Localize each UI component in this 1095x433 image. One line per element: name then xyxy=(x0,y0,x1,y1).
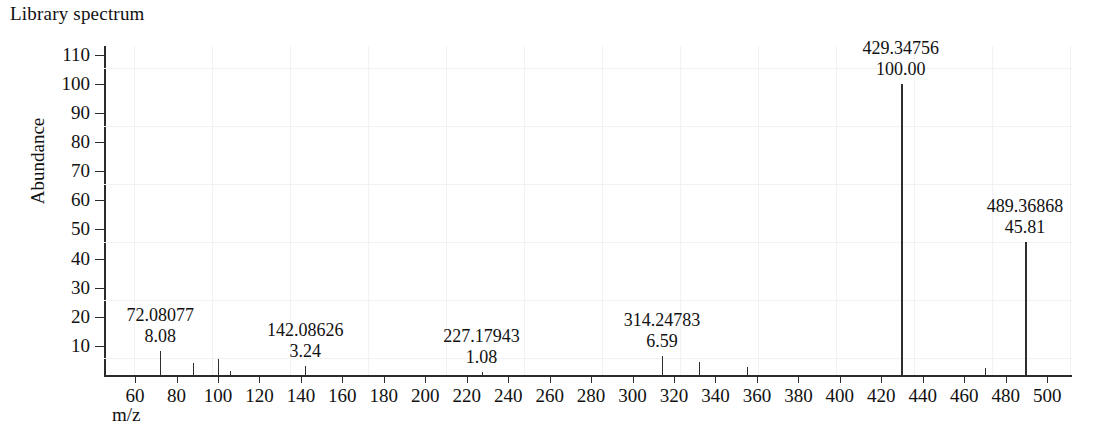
y-axis-tick: 20 xyxy=(95,317,104,318)
x-axis-tick-label: 160 xyxy=(328,385,357,407)
y-axis-tick: 70 xyxy=(95,171,104,172)
peak-label: 314.247836.59 xyxy=(624,310,701,352)
gridline-vertical xyxy=(914,46,915,375)
gridline-vertical xyxy=(524,46,525,375)
peak-bar xyxy=(1025,242,1027,375)
y-axis-tick-label: 70 xyxy=(71,160,90,182)
x-axis-tick xyxy=(135,375,136,383)
gridline-vertical xyxy=(836,46,837,375)
peak-bar xyxy=(218,359,219,375)
y-axis-tick: 80 xyxy=(95,142,104,143)
x-axis-tick-label: 300 xyxy=(618,385,647,407)
gridline-horizontal xyxy=(104,300,1072,301)
peak-label-intensity: 8.08 xyxy=(126,326,194,347)
x-axis-title: m/z xyxy=(112,404,141,426)
y-axis-tick: 10 xyxy=(95,346,104,347)
y-axis-tick-label: 110 xyxy=(62,44,90,66)
x-axis-tick xyxy=(301,375,302,383)
mass-spectrum-chart: Library spectrum Abundance m/z 102030405… xyxy=(0,0,1095,433)
x-axis-tick xyxy=(550,375,551,383)
peak-label-mz: 227.17943 xyxy=(443,326,520,347)
x-axis-tick xyxy=(674,375,675,383)
gridline-horizontal xyxy=(104,126,1072,127)
x-axis-tick xyxy=(177,375,178,383)
peak-bar xyxy=(901,84,903,375)
peak-label: 142.086263.24 xyxy=(267,320,344,362)
x-axis-tick-label: 180 xyxy=(370,385,399,407)
x-axis-tick xyxy=(715,375,716,383)
gridline-horizontal xyxy=(104,242,1072,243)
y-axis-tick-label: 20 xyxy=(71,306,90,328)
peak-label-intensity: 6.59 xyxy=(624,331,701,352)
x-axis-line xyxy=(104,375,1072,377)
chart-title: Library spectrum xyxy=(10,2,145,26)
peak-bar xyxy=(193,363,194,375)
x-axis-tick xyxy=(425,375,426,383)
peak-bar xyxy=(305,366,306,375)
x-axis-tick xyxy=(964,375,965,383)
peak-label-mz: 429.34756 xyxy=(862,38,939,59)
x-axis-tick xyxy=(218,375,219,383)
x-axis-tick xyxy=(840,375,841,383)
y-axis-tick-label: 40 xyxy=(71,248,90,270)
gridline-horizontal xyxy=(104,358,1072,359)
x-axis-tick-label: 200 xyxy=(411,385,440,407)
x-axis-tick-label: 220 xyxy=(452,385,481,407)
x-axis-tick-label: 240 xyxy=(494,385,523,407)
x-axis-tick xyxy=(923,375,924,383)
x-axis-tick-label: 360 xyxy=(743,385,772,407)
x-axis-tick-label: 380 xyxy=(784,385,813,407)
y-axis-tick: 40 xyxy=(95,259,104,260)
gridline-vertical xyxy=(368,46,369,375)
x-axis-tick xyxy=(881,375,882,383)
gridline-vertical xyxy=(212,46,213,375)
peak-label-mz: 489.36868 xyxy=(987,196,1064,217)
y-axis-tick-label: 10 xyxy=(71,335,90,357)
x-axis-tick-label: 280 xyxy=(577,385,606,407)
x-axis-tick-label: 500 xyxy=(1033,385,1062,407)
peak-label-intensity: 45.81 xyxy=(987,217,1064,238)
peak-label-mz: 72.08077 xyxy=(126,305,194,326)
x-axis-tick-label: 340 xyxy=(701,385,730,407)
peak-label-intensity: 3.24 xyxy=(267,341,344,362)
peak-label: 227.179431.08 xyxy=(443,326,520,368)
x-axis-tick-label: 420 xyxy=(867,385,896,407)
gridline-vertical xyxy=(602,46,603,375)
x-axis-tick xyxy=(508,375,509,383)
y-axis-tick-label: 90 xyxy=(71,102,90,124)
y-axis-tick-label: 100 xyxy=(62,73,91,95)
gridline-horizontal xyxy=(104,184,1072,185)
y-axis-tick-label: 60 xyxy=(71,189,90,211)
x-axis-tick xyxy=(342,375,343,383)
x-axis-tick-label: 440 xyxy=(909,385,938,407)
plot-area: 102030405060708090100110 608010012014016… xyxy=(104,46,1072,375)
y-axis-tick: 110 xyxy=(95,55,104,56)
x-axis-tick-label: 320 xyxy=(660,385,689,407)
y-axis-tick: 30 xyxy=(95,288,104,289)
y-axis-tick-label: 30 xyxy=(71,277,90,299)
x-axis-tick-label: 140 xyxy=(287,385,316,407)
x-axis-tick xyxy=(633,375,634,383)
peak-bar xyxy=(699,362,700,375)
x-axis-tick xyxy=(591,375,592,383)
x-axis-tick-label: 400 xyxy=(826,385,855,407)
peak-bar xyxy=(160,351,161,375)
y-axis-tick: 50 xyxy=(95,229,104,230)
peak-label: 429.34756100.00 xyxy=(862,38,939,80)
peak-label-intensity: 1.08 xyxy=(443,347,520,368)
gridline-vertical xyxy=(758,46,759,375)
peak-bar xyxy=(230,371,231,375)
peak-label-intensity: 100.00 xyxy=(862,59,939,80)
x-axis-tick xyxy=(798,375,799,383)
x-axis-tick xyxy=(1047,375,1048,383)
y-axis-tick: 60 xyxy=(95,200,104,201)
x-axis-tick-label: 260 xyxy=(535,385,564,407)
peak-bar xyxy=(747,367,748,375)
gridline-vertical xyxy=(1070,46,1071,375)
x-axis-tick-label: 80 xyxy=(167,385,186,407)
x-axis-tick-label: 480 xyxy=(991,385,1020,407)
x-axis-tick-label: 100 xyxy=(204,385,233,407)
x-axis-tick xyxy=(757,375,758,383)
y-axis-title: Abundance xyxy=(27,101,49,221)
x-axis-tick-label: 120 xyxy=(245,385,274,407)
